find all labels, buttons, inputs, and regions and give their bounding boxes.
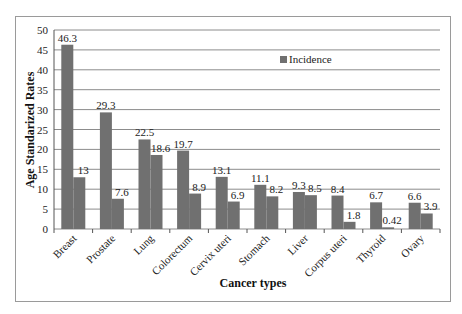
x-tick-label: Cervix uteri bbox=[187, 232, 233, 278]
y-tick-label: 35 bbox=[37, 84, 49, 96]
bar bbox=[216, 177, 228, 229]
value-label: 29.3 bbox=[96, 99, 116, 111]
value-label: 3.9 bbox=[424, 200, 438, 212]
bar bbox=[139, 139, 151, 229]
x-tick-labels: BreastProstateLungColorectumCervix uteri… bbox=[50, 232, 426, 280]
x-tick-label: Ovary bbox=[398, 232, 426, 260]
value-label: 6.7 bbox=[369, 189, 383, 201]
bar bbox=[370, 202, 382, 229]
legend: Incidence bbox=[280, 53, 332, 65]
y-tick-label: 20 bbox=[37, 143, 49, 155]
y-tick-label: 30 bbox=[37, 104, 49, 116]
x-tick-label: Lung bbox=[131, 232, 156, 257]
bar bbox=[73, 177, 85, 229]
y-axis-title: Age Standarized Rates bbox=[23, 71, 37, 188]
x-tick-label: Liver bbox=[285, 232, 311, 258]
value-label: 6.6 bbox=[408, 190, 422, 202]
y-tick-label: 10 bbox=[37, 183, 49, 195]
bar bbox=[61, 45, 73, 229]
y-tick-label: 45 bbox=[37, 44, 49, 56]
bar bbox=[112, 199, 124, 229]
bar bbox=[151, 155, 163, 229]
y-tick-label: 50 bbox=[37, 24, 49, 36]
value-label: 6.9 bbox=[231, 189, 245, 201]
x-tick-label: Thyroid bbox=[354, 232, 388, 266]
legend-label: Incidence bbox=[289, 53, 332, 65]
value-label: 8.4 bbox=[331, 183, 345, 195]
value-label: 0.42 bbox=[382, 214, 401, 226]
value-label: 46.3 bbox=[58, 32, 78, 44]
legend-swatch bbox=[280, 56, 287, 63]
value-label: 8.9 bbox=[192, 181, 206, 193]
value-label: 13.1 bbox=[212, 164, 231, 176]
bars bbox=[61, 45, 432, 229]
value-label: 22.5 bbox=[135, 126, 155, 138]
bar bbox=[100, 112, 112, 229]
bar bbox=[266, 196, 278, 229]
y-tick-label: 5 bbox=[43, 203, 49, 215]
y-tick-label: 0 bbox=[43, 223, 49, 235]
x-axis-title: Cancer types bbox=[220, 276, 287, 290]
value-label: 8.2 bbox=[269, 183, 283, 195]
x-tick-label: Prostate bbox=[84, 232, 118, 266]
bar bbox=[382, 227, 394, 229]
value-label: 8.5 bbox=[308, 182, 322, 194]
bar bbox=[228, 202, 240, 229]
y-tick-label: 40 bbox=[37, 64, 49, 76]
bar-chart: 05101520253035404550 46.31329.37.622.518… bbox=[0, 0, 462, 314]
value-label: 1.8 bbox=[347, 209, 361, 221]
y-tick-label: 25 bbox=[37, 124, 49, 136]
bar bbox=[189, 194, 201, 229]
bar bbox=[293, 192, 305, 229]
x-tick-label: Breast bbox=[50, 232, 78, 260]
y-tick-label: 15 bbox=[37, 163, 49, 175]
value-label: 11.1 bbox=[251, 172, 270, 184]
value-label: 18.6 bbox=[151, 142, 171, 154]
value-label: 19.7 bbox=[173, 138, 193, 150]
value-label: 9.3 bbox=[292, 179, 306, 191]
bar bbox=[344, 222, 356, 229]
value-label: 7.6 bbox=[115, 186, 129, 198]
bar bbox=[421, 213, 433, 229]
value-label: 13 bbox=[78, 164, 90, 176]
bar bbox=[332, 196, 344, 229]
bar bbox=[409, 203, 421, 229]
bar bbox=[254, 185, 266, 229]
bar bbox=[305, 195, 317, 229]
bar bbox=[177, 151, 189, 229]
x-tick-label: Stomach bbox=[236, 232, 272, 268]
